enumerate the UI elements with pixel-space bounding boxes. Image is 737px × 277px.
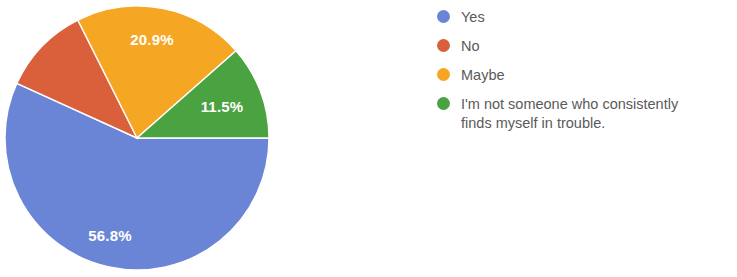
pie-svg: 20.9%11.5%56.8% <box>0 0 300 277</box>
pie-slice-percentage-label: 20.9% <box>130 31 174 48</box>
legend-label-other: I'm not someone who consistently finds m… <box>461 95 678 133</box>
legend-item-other[interactable]: I'm not someone who consistently finds m… <box>437 95 737 133</box>
pie-chart-graphic: 20.9%11.5%56.8% <box>0 0 300 277</box>
legend-label-yes: Yes <box>461 8 485 27</box>
legend-dot-maybe-icon <box>437 68 450 81</box>
pie-slice-percentage-label: 11.5% <box>201 98 244 115</box>
legend-label-maybe: Maybe <box>461 66 505 85</box>
chart-legend: Yes No Maybe I'm not someone who consist… <box>437 8 737 143</box>
pie-chart-screenshot: 20.9%11.5%56.8% Yes No Maybe I'm not som… <box>0 0 737 277</box>
legend-dot-other-icon <box>437 97 450 110</box>
legend-dot-no-icon <box>437 39 450 52</box>
legend-dot-yes-icon <box>437 10 450 23</box>
legend-item-yes[interactable]: Yes <box>437 8 737 27</box>
pie-slice-percentage-label: 56.8% <box>88 227 132 244</box>
legend-label-no: No <box>461 37 480 56</box>
legend-item-maybe[interactable]: Maybe <box>437 66 737 85</box>
legend-item-no[interactable]: No <box>437 37 737 56</box>
